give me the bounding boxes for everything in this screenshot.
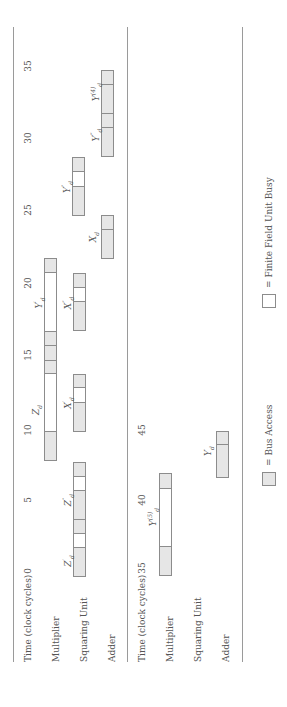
- op-label-yd-4: Y(4)d: [88, 83, 105, 101]
- bus-access-segment: [160, 474, 171, 488]
- op-label-xd-double-prime: X″d: [60, 297, 77, 310]
- legend-label-bus-access: = Bus Access: [264, 405, 274, 466]
- row-label-time-2: Time (clock cycles): [137, 575, 147, 662]
- op-label-yd-double-prime: Y″d: [59, 181, 76, 193]
- tick-25: 25: [23, 204, 33, 215]
- timing-diagram: Time (clock cycles) Multiplier Squaring …: [0, 0, 287, 707]
- tick-10: 10: [23, 424, 33, 435]
- op-bar-zd-double-prime: [73, 462, 86, 520]
- rule-table-divider: [127, 27, 128, 662]
- tick-35-2: 35: [137, 562, 147, 573]
- tick-20: 20: [23, 277, 33, 288]
- op-bar-xd: [101, 215, 114, 259]
- row-label-time: Time (clock cycles): [23, 575, 33, 662]
- row-label-squaring-unit: Squaring Unit: [79, 597, 89, 662]
- bus-access-segment: [102, 114, 113, 127]
- op-label-yd-5: Y(5)d: [145, 508, 162, 526]
- tick-5: 5: [23, 497, 33, 503]
- op-bar-zd-prime: [73, 519, 86, 577]
- bus-access-segment: [217, 432, 228, 444]
- row-label-adder: Adder: [107, 634, 117, 662]
- bus-access-segment: [74, 375, 85, 387]
- tick-45: 45: [137, 424, 147, 435]
- unit-busy-segment: [74, 476, 85, 490]
- unit-busy-segment: [45, 373, 56, 431]
- op-label-zd-double-prime: Z″d: [60, 494, 77, 506]
- bus-access-segment: [45, 259, 56, 272]
- tick-30: 30: [23, 132, 33, 143]
- rule-top: [13, 27, 14, 662]
- tick-15: 15: [23, 349, 33, 360]
- legend-swatch-unit-busy: [262, 294, 276, 308]
- bus-access-segment: [45, 331, 56, 345]
- tick-0: 0: [23, 568, 33, 574]
- row-label-multiplier-2: Multiplier: [165, 616, 175, 662]
- unit-busy-segment: [74, 533, 85, 547]
- bus-access-segment: [74, 274, 85, 287]
- op-label-zd: Zd: [31, 405, 45, 415]
- op-label-xd-prime: X′d: [60, 397, 77, 409]
- bus-access-segment: [102, 216, 113, 229]
- bus-access-segment: [45, 431, 56, 460]
- bus-access-segment: [102, 229, 113, 258]
- tick-35: 35: [23, 60, 33, 71]
- bus-access-segment: [160, 546, 171, 575]
- bus-access-segment: [45, 345, 56, 360]
- bus-access-segment: [73, 158, 84, 171]
- op-bar-zd: [44, 359, 57, 461]
- legend-label-unit-busy: = Finite Field Unit Busy: [264, 177, 274, 288]
- bus-access-segment: [217, 444, 228, 477]
- row-label-multiplier: Multiplier: [51, 616, 61, 662]
- op-label-yd: Yd: [203, 446, 217, 456]
- tick-40: 40: [137, 494, 147, 505]
- bus-access-segment: [74, 463, 85, 476]
- row-label-adder-2: Adder: [221, 634, 231, 662]
- op-label-zd-prime: Z′d: [60, 555, 77, 566]
- op-bar-yd: [216, 431, 229, 478]
- op-label-yd-prime: Y′d: [31, 297, 48, 308]
- rule-bottom: [242, 27, 243, 662]
- legend-swatch-bus-access: [262, 472, 276, 486]
- op-label-xd: Xd: [88, 232, 102, 242]
- bus-access-segment: [74, 520, 85, 533]
- row-label-squaring-unit-2: Squaring Unit: [193, 597, 203, 662]
- bus-access-segment: [45, 360, 56, 373]
- op-bar-yd-prime: [44, 258, 57, 361]
- op-label-yd-triple-prime: Y‴d: [88, 129, 105, 142]
